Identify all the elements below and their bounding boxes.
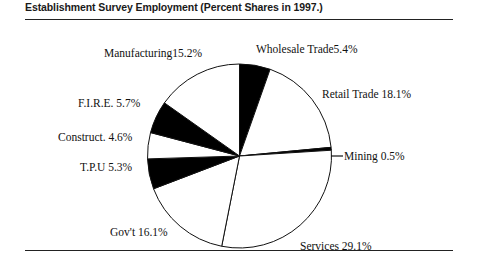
pie-label-manufacturing: Manufacturing15.2% [104,47,202,59]
pie-label-construct: Construct. 4.6% [58,131,132,143]
pie-label-govt: Gov't 16.1% [110,226,168,238]
pie-label-services: Services 29.1% [300,240,372,252]
pie-label-fire: F.I.R.E. 5.7% [78,97,140,109]
pie-slice-group [148,64,332,248]
pie-label-tpu: T.P.U 5.3% [80,161,132,173]
pie-label-mining: Mining 0.5% [344,150,405,162]
chart-page: Establishment Survey Employment (Percent… [0,0,478,267]
pie-label-retail-trade: Retail Trade 18.1% [322,88,411,100]
pie-label-wholesale-trade: Wholesale Trade5.4% [256,43,358,55]
